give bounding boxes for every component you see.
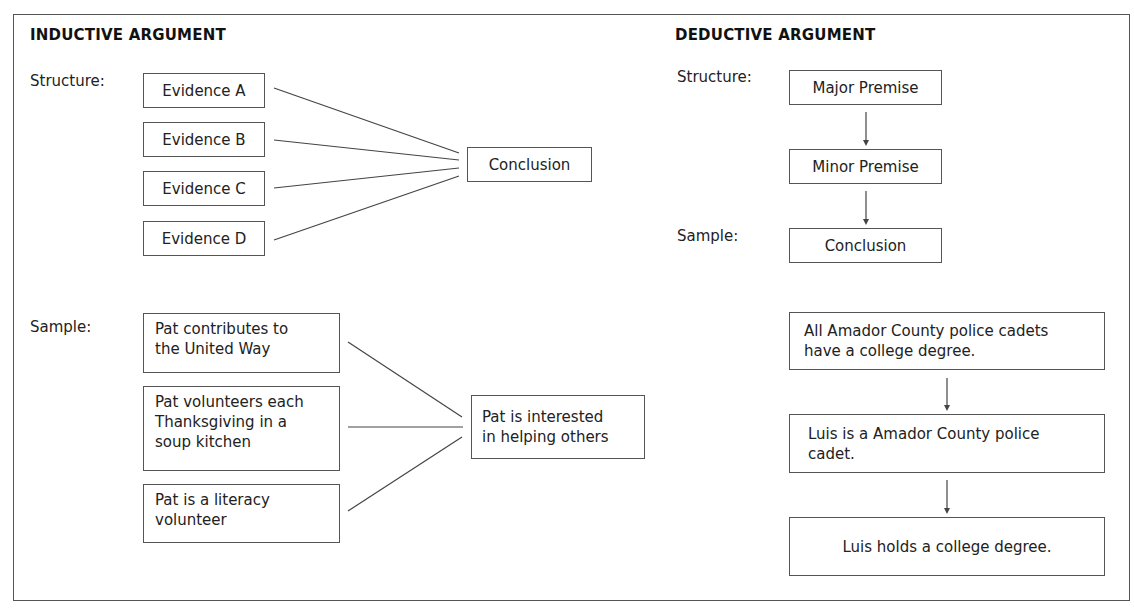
sample-evidence-3-box: Pat is a literacy volunteer	[143, 484, 340, 543]
inductive-structure-label: Structure:	[30, 72, 105, 90]
sample-evidence-2-box: Pat volunteers each Thanksgiving in a so…	[143, 386, 340, 471]
inductive-heading: INDUCTIVE ARGUMENT	[30, 26, 226, 44]
evidence-d-box: Evidence D	[143, 221, 265, 256]
deductive-sample-label: Sample:	[677, 227, 738, 245]
sample-major-premise-box: All Amador County police cadets have a c…	[789, 312, 1105, 370]
inductive-sample-label: Sample:	[30, 318, 91, 336]
sample-evidence-1-box: Pat contributes to the United Way	[143, 313, 340, 373]
sample-conclusion-box: Pat is interested in helping others	[471, 395, 645, 459]
deductive-structure-label: Structure:	[677, 68, 752, 86]
evidence-c-box: Evidence C	[143, 171, 265, 206]
evidence-a-box: Evidence A	[143, 73, 265, 108]
minor-premise-box: Minor Premise	[789, 149, 942, 184]
deductive-heading: DEDUCTIVE ARGUMENT	[675, 26, 875, 44]
major-premise-box: Major Premise	[789, 70, 942, 105]
deductive-conclusion-box: Conclusion	[789, 228, 942, 263]
evidence-b-box: Evidence B	[143, 122, 265, 157]
inductive-conclusion-box: Conclusion	[467, 147, 592, 182]
sample-deductive-conclusion-box: Luis holds a college degree.	[789, 517, 1105, 576]
sample-minor-premise-box: Luis is a Amador County police cadet.	[789, 414, 1105, 473]
